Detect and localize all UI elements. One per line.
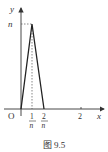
figure-caption: 图 9.5 (43, 140, 66, 150)
x-tick-2: 2 (78, 112, 82, 121)
origin-label: O (8, 111, 15, 121)
x-tick-2-over-n-den: n (42, 121, 46, 130)
x-tick-2-over-n-num: 2 (42, 112, 46, 121)
y-axis-label: y (9, 4, 14, 14)
x-tick-1-over-n-den: n (30, 121, 34, 130)
figure-labels: y n O 1 n 2 n 2 x 图 9.5 (0, 0, 108, 152)
x-axis-label: x (96, 111, 101, 121)
y-tick-n: n (8, 19, 13, 29)
x-tick-1-over-n-num: 1 (30, 112, 34, 121)
